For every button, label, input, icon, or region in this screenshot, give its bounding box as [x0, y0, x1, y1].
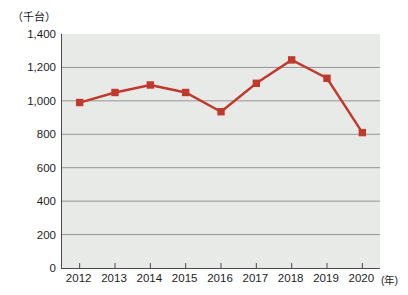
data-markers — [76, 56, 366, 136]
x-axis-tick-label: 2014 — [137, 272, 163, 284]
x-axis-tick-label: 2016 — [207, 272, 233, 284]
y-axis-tick-label: 400 — [10, 195, 56, 207]
x-axis-tick-label: 2013 — [101, 272, 127, 284]
x-axis-tick-label: 2012 — [66, 272, 92, 284]
data-point-marker — [76, 99, 83, 106]
y-axis-tick-label: 200 — [10, 229, 56, 241]
data-point-marker — [359, 129, 366, 136]
y-axis-tick-label: 1,200 — [10, 61, 56, 73]
x-axis-tick-labels: 201220132014201520162017201820192020 — [61, 272, 379, 292]
data-point-marker — [323, 75, 330, 82]
x-axis-ticks — [80, 263, 363, 268]
data-point-marker — [111, 89, 118, 96]
plot-area — [61, 34, 380, 269]
y-axis-tick-label: 0 — [10, 262, 56, 274]
line-chart: （千台） 02004006008001,0001,2001,400 201220… — [0, 0, 408, 295]
data-point-marker — [288, 56, 295, 63]
y-axis-tick-label: 1,000 — [10, 95, 56, 107]
y-axis-tick-label: 600 — [10, 162, 56, 174]
x-axis-unit-label: (年) — [381, 272, 398, 287]
y-axis-unit-label: （千台） — [12, 8, 56, 24]
data-point-marker — [217, 108, 224, 115]
y-axis-tick-label: 1,400 — [10, 28, 56, 40]
plot-svg — [62, 34, 380, 268]
x-axis-tick-label: 2018 — [278, 272, 304, 284]
data-point-marker — [147, 81, 154, 88]
y-axis-tick-label: 800 — [10, 128, 56, 140]
gridlines — [62, 34, 380, 235]
x-axis-tick-label: 2019 — [313, 272, 339, 284]
y-axis-tick-labels: 02004006008001,0001,2001,400 — [6, 34, 56, 268]
data-point-marker — [253, 80, 260, 87]
x-axis-tick-label: 2017 — [243, 272, 269, 284]
data-point-marker — [182, 89, 189, 96]
x-axis-tick-label: 2015 — [172, 272, 198, 284]
data-line — [80, 60, 363, 133]
x-axis-tick-label: 2020 — [349, 272, 375, 284]
